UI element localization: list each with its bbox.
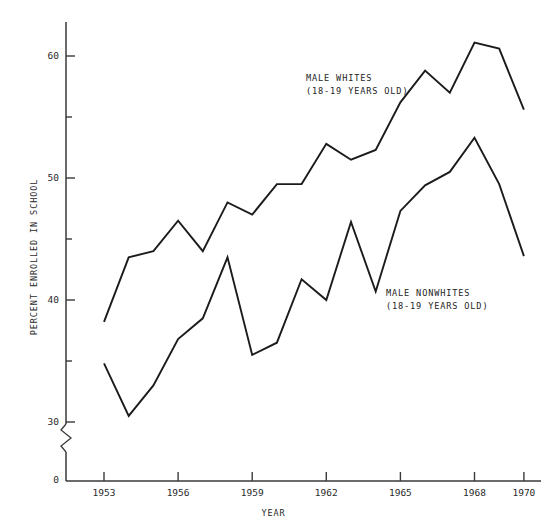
y-tick-label: 60	[33, 50, 59, 61]
series-annotation-male-nonwhites-subtitle: (18-19 YEARS OLD)	[386, 300, 488, 313]
x-tick-label: 1953	[82, 487, 126, 498]
x-tick-label: 1965	[378, 487, 422, 498]
x-tick-label: 1959	[230, 487, 274, 498]
series-annotation-male-nonwhites-title: MALE NONWHITES	[386, 288, 470, 298]
x-axis-ticks	[104, 472, 524, 481]
x-tick-label: 1970	[502, 487, 546, 498]
y-axis-ticks	[66, 56, 75, 422]
x-axis-title: YEAR	[0, 508, 547, 518]
series-annotation-male-whites: MALE WHITES (18-19 YEARS OLD)	[306, 72, 408, 98]
series-annotation-male-whites-subtitle: (18-19 YEARS OLD)	[306, 85, 408, 98]
series-annotation-male-whites-title: MALE WHITES	[306, 73, 372, 83]
y-tick-label-zero: 0	[33, 474, 59, 485]
line-chart-plot	[0, 0, 547, 529]
y-tick-label: 30	[33, 416, 59, 427]
chart-figure: 605040300 1953195619591962196519681970 P…	[0, 0, 547, 529]
series-line-male-nonwhites	[104, 138, 524, 416]
axis-spines	[61, 22, 541, 481]
data-series-layer	[104, 43, 524, 416]
x-tick-label: 1962	[304, 487, 348, 498]
y-axis-title: PERCENT ENROLLED IN SCHOOL	[29, 157, 39, 357]
series-annotation-male-nonwhites: MALE NONWHITES (18-19 YEARS OLD)	[386, 287, 488, 313]
x-tick-label: 1956	[156, 487, 200, 498]
y-axis-break-zigzag	[61, 424, 71, 452]
x-tick-label: 1968	[453, 487, 497, 498]
